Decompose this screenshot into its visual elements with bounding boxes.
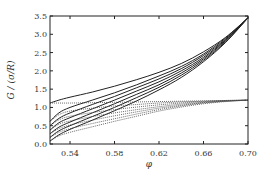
y-tick-label: 0.0 — [34, 140, 47, 149]
series-dotted-5 — [50, 100, 248, 134]
y-tick-label: 2.5 — [34, 49, 47, 58]
series-layer — [50, 18, 248, 141]
x-tick-label: 0.54 — [61, 149, 79, 158]
x-tick-label: 0.58 — [106, 149, 124, 158]
y-tick-label: 1.5 — [34, 85, 47, 94]
x-tick-label: 0.66 — [195, 149, 213, 158]
line-chart: 0.540.580.620.660.700.00.51.01.52.02.53.… — [0, 0, 269, 172]
series-solid-4 — [50, 18, 248, 130]
series-solid-7 — [50, 18, 248, 141]
y-axis-label: G / (σ/R) — [6, 60, 16, 99]
series-solid-1 — [50, 18, 248, 103]
y-tick-label: 2.0 — [34, 67, 47, 76]
y-tick-label: 3.5 — [34, 12, 47, 21]
axis-ticks: 0.540.580.620.660.700.00.51.01.52.02.53.… — [34, 12, 257, 158]
x-axis-label: φ — [146, 159, 153, 169]
x-tick-label: 0.62 — [150, 149, 168, 158]
y-tick-label: 3.0 — [34, 30, 47, 39]
series-dotted-7 — [50, 100, 248, 141]
series-solid-6 — [50, 18, 248, 138]
y-tick-label: 0.5 — [34, 122, 47, 131]
x-tick-label: 0.70 — [239, 149, 257, 158]
y-tick-label: 1.0 — [34, 103, 47, 112]
